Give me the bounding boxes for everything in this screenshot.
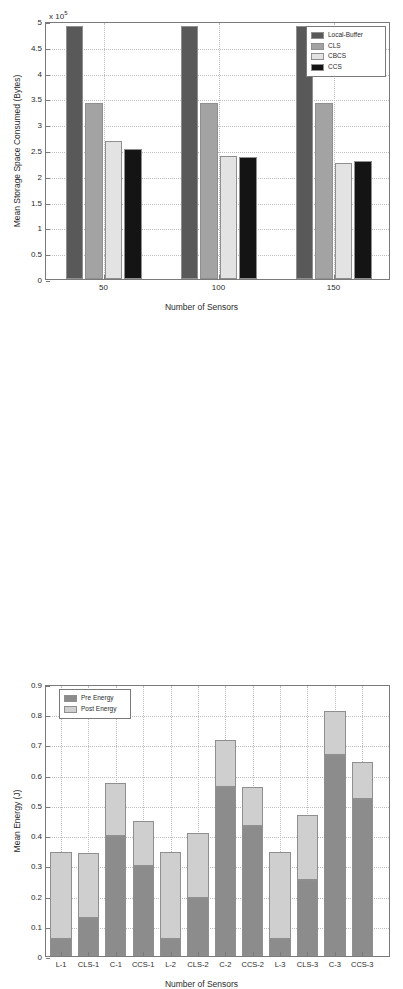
y-tick-mark: [46, 807, 50, 808]
x-tick-mark: [116, 952, 117, 956]
legend-swatch: [64, 706, 77, 713]
legend-item: CBCS: [311, 52, 381, 62]
bar-segment-pre-energy: [352, 799, 373, 956]
y-axis-multiplier-exponent: 5: [64, 10, 67, 16]
y-tick-label: 0.6: [31, 773, 42, 781]
x-tick-mark: [88, 952, 89, 956]
stacked-bar: [105, 783, 126, 956]
x-tick-label: CLS-2: [187, 961, 208, 969]
bar: [105, 141, 123, 279]
bar-segment-post-energy: [352, 762, 373, 798]
y-tick-mark: [46, 958, 50, 959]
legend-label: CLS: [328, 43, 341, 50]
bar-segment-post-energy: [215, 740, 236, 787]
legend-item: Local-Buffer: [311, 31, 381, 41]
bar: [315, 103, 333, 279]
y-tick-label: 1.5: [31, 200, 42, 208]
y-tick-mark: [46, 229, 50, 230]
stacked-bar: [187, 833, 208, 956]
energy-legend: Pre EnergyPost Energy: [59, 689, 131, 719]
storage-chart-figure: x 105 00.511.522.533.544.5550100150 Mean…: [0, 0, 403, 330]
y-tick-label: 3: [38, 122, 42, 130]
gridline-horizontal: [46, 100, 389, 101]
storage-x-axis-label: Number of Sensors: [0, 302, 403, 312]
y-tick-label: 0: [38, 954, 42, 962]
stacked-bar: [324, 711, 345, 956]
x-tick-mark: [143, 952, 144, 956]
bar-segment-pre-energy: [187, 898, 208, 956]
bar: [335, 163, 353, 279]
bar-segment-post-energy: [105, 783, 126, 836]
bar: [66, 26, 84, 279]
legend-item: Pre Energy: [64, 694, 126, 704]
y-tick-label: 0.4: [31, 833, 42, 841]
x-tick-mark: [280, 952, 281, 956]
y-tick-label: 5: [38, 19, 42, 27]
legend-item: CLS: [311, 41, 381, 51]
y-tick-mark: [46, 716, 50, 717]
x-tick-mark: [198, 952, 199, 956]
x-tick-mark: [104, 275, 105, 279]
stacked-bar: [78, 853, 99, 956]
bar-segment-pre-energy: [78, 918, 99, 956]
y-tick-label: 0.8: [31, 712, 42, 720]
x-tick-label: C-2: [219, 961, 231, 969]
bar: [200, 103, 218, 279]
energy-y-axis-label: Mean Energy (J): [12, 790, 22, 853]
x-tick-label: L-1: [56, 961, 67, 969]
legend-label: CBCS: [328, 53, 346, 60]
x-tick-label: 50: [99, 284, 108, 292]
storage-y-axis-label: Mean Storage Space Consumed (Bytes): [12, 75, 22, 228]
y-tick-label: 0.9: [31, 682, 42, 690]
legend-swatch: [311, 43, 324, 50]
y-tick-label: 0.3: [31, 863, 42, 871]
bar-segment-pre-energy: [297, 880, 318, 956]
legend-swatch: [64, 695, 77, 702]
y-tick-mark: [46, 281, 50, 282]
y-tick-label: 4: [38, 71, 42, 79]
x-tick-mark: [362, 952, 363, 956]
x-tick-label: L-2: [165, 961, 176, 969]
y-tick-mark: [46, 777, 50, 778]
y-tick-label: 0.1: [31, 924, 42, 932]
x-tick-mark: [335, 952, 336, 956]
y-tick-label: 4.5: [31, 45, 42, 53]
y-axis-multiplier-base: x 10: [49, 12, 64, 21]
legend-swatch: [311, 64, 324, 71]
stacked-bar: [242, 787, 263, 956]
y-tick-mark: [46, 75, 50, 76]
x-tick-label: CCS-1: [132, 961, 155, 969]
y-axis-multiplier: x 105: [49, 10, 67, 21]
bar-segment-post-energy: [160, 852, 181, 939]
bar-segment-post-energy: [133, 821, 154, 865]
x-tick-label: 100: [212, 284, 225, 292]
y-tick-label: 0.7: [31, 742, 42, 750]
bar-segment-pre-energy: [324, 755, 345, 956]
x-tick-mark: [307, 952, 308, 956]
x-tick-mark: [334, 275, 335, 279]
y-tick-label: 0.2: [31, 894, 42, 902]
stacked-bar: [297, 815, 318, 956]
y-tick-label: 0.5: [31, 251, 42, 259]
stacked-bar: [133, 821, 154, 956]
bar-segment-post-energy: [297, 815, 318, 880]
bar: [354, 161, 372, 279]
bar-segment-pre-energy: [105, 836, 126, 956]
stacked-bar: [50, 852, 71, 956]
energy-chart-figure: 00.10.20.30.40.50.60.70.80.9L-1CLS-1C-1C…: [0, 330, 403, 684]
bar: [239, 157, 257, 279]
bar-segment-post-energy: [78, 853, 99, 918]
x-tick-label: C-1: [110, 961, 122, 969]
y-tick-mark: [46, 686, 50, 687]
y-tick-mark: [46, 152, 50, 153]
energy-axes: 00.10.20.30.40.50.60.70.80.9L-1CLS-1C-1C…: [45, 685, 390, 957]
bar: [124, 149, 142, 279]
legend-label: CCS: [328, 64, 342, 71]
x-tick-label: C-3: [329, 961, 341, 969]
legend-item: CCS: [311, 62, 381, 72]
y-tick-label: 2: [38, 174, 42, 182]
y-tick-mark: [46, 126, 50, 127]
stacked-bar: [215, 740, 236, 956]
energy-x-axis-label: Number of Sensors: [0, 979, 403, 989]
y-tick-mark: [46, 178, 50, 179]
